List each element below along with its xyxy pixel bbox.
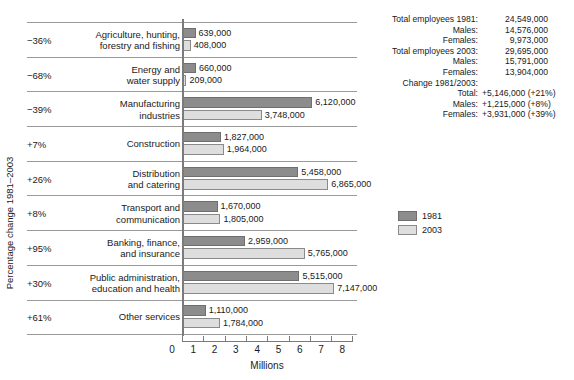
bar-1981 [182, 201, 218, 212]
value-label-1981: 5,515,000 [302, 271, 342, 282]
rows-bottom-rule [27, 334, 357, 335]
category-label-line2: communication [67, 213, 180, 225]
chart-row: +30%Public administration,education and … [27, 265, 357, 300]
stat-row: Females:13,904,000 [378, 67, 548, 78]
category-label: Public administration,education and heal… [67, 271, 180, 294]
stat-value: 24,549,000 [482, 14, 548, 25]
legend-item: 1981 [398, 209, 442, 223]
bar-group: 1,670,0001,805,000 [182, 201, 382, 225]
stat-value: 15,791,000 [482, 56, 548, 67]
y-axis-title: Percentage change 1981–2003 [2, 128, 16, 318]
stat-row: Females:+3,931,000 (+39%) [378, 109, 548, 120]
bar-1981 [182, 97, 312, 108]
value-label-2003: 1,964,000 [227, 144, 267, 155]
summary-stats-panel: Total employees 1981:24,549,000Males:14,… [378, 14, 548, 120]
percentage-change-label: +26% [27, 173, 52, 184]
value-label-2003: 209,000 [189, 75, 222, 86]
category-label-line2: industries [67, 109, 180, 121]
value-label-1981: 2,959,000 [248, 236, 288, 247]
stat-label: Males: [378, 25, 482, 36]
legend-item: 2003 [398, 223, 442, 237]
x-axis-tick-label: 2 [205, 344, 225, 355]
stat-value: 29,695,000 [482, 46, 548, 57]
stat-row: Males:+1,215,000 (+8%) [378, 99, 548, 110]
legend-swatch-icon [398, 225, 417, 235]
category-label-line1: Distribution [67, 167, 180, 179]
x-axis-tick [225, 336, 226, 342]
stat-label: Total: [378, 88, 482, 99]
chart-row: −39%Manufacturingindustries6,120,0003,74… [27, 91, 357, 126]
bar-2003 [182, 248, 305, 259]
legend-label: 1981 [422, 211, 442, 221]
bar-2003 [182, 318, 220, 329]
x-axis-tick [352, 336, 353, 342]
value-label-2003: 408,000 [194, 40, 227, 51]
stat-row: Total employees 2003:29,695,000 [378, 46, 548, 57]
value-label-1981: 1,110,000 [209, 305, 248, 316]
x-axis-tick [331, 336, 332, 342]
x-axis-tick-label: 1 [183, 344, 203, 355]
x-axis-tick [246, 336, 247, 342]
stat-label: Males: [378, 56, 482, 67]
bar-group: 660,000209,000 [182, 63, 382, 87]
value-label-1981: 660,000 [199, 63, 232, 74]
bar-1981 [182, 28, 196, 39]
category-label-line2: water supply [67, 75, 180, 87]
category-label: Manufacturingindustries [67, 98, 180, 121]
x-axis-tick-label: 4 [247, 344, 267, 355]
value-label-1981: 6,120,000 [315, 97, 355, 108]
stat-row: Total:+5,146,000 (+21%) [378, 88, 548, 99]
bar-2003 [182, 110, 262, 121]
stat-value: 9,973,000 [482, 35, 548, 46]
category-label: Banking, finance,and insurance [67, 236, 180, 259]
category-label-line1: Agriculture, hunting, [67, 28, 180, 40]
legend-swatch-icon [398, 211, 417, 221]
stat-row: Males:15,791,000 [378, 56, 548, 67]
percentage-change-label: +8% [27, 208, 46, 219]
stat-label: Females: [378, 109, 482, 120]
stat-row: Males:14,576,000 [378, 25, 548, 36]
stat-label: Change 1981/2003: [378, 78, 482, 89]
bar-group: 1,827,0001,964,000 [182, 132, 382, 156]
value-axis-spine [182, 19, 184, 336]
stat-label: Total employees 1981: [378, 14, 482, 25]
chart-row: +95%Banking, finance,and insurance2,959,… [27, 230, 357, 265]
x-axis-tick [203, 336, 204, 342]
category-label-line1: Energy and [67, 63, 180, 75]
stat-value: +5,146,000 (+21%) [482, 88, 548, 99]
x-axis-tick [310, 336, 311, 342]
bar-2003 [182, 179, 328, 190]
value-label-2003: 5,765,000 [308, 248, 348, 259]
bar-1981 [182, 132, 221, 143]
category-label-line1: Transport and [67, 202, 180, 214]
stat-row: Change 1981/2003: [378, 78, 548, 89]
x-axis-tick [289, 336, 290, 342]
chart-root: Percentage change 1981–2003 −36%Agricult… [0, 0, 574, 380]
x-axis-tick-label: 0 [162, 344, 182, 355]
percentage-change-label: −39% [27, 104, 52, 115]
bar-group: 2,959,0005,765,000 [182, 236, 382, 260]
category-label: Other services [67, 312, 180, 324]
chart-row: −68%Energy andwater supply660,000209,000 [27, 57, 357, 92]
category-label-line2: and catering [67, 179, 180, 191]
legend-label: 2003 [422, 225, 442, 235]
stat-label: Total employees 2003: [378, 46, 482, 57]
chart-row: −36%Agriculture, hunting,forestry and fi… [27, 22, 357, 57]
chart-row: +8%Transport andcommunication1,670,0001,… [27, 195, 357, 230]
value-label-1981: 5,458,000 [301, 167, 341, 178]
value-label-2003: 7,147,000 [337, 283, 377, 294]
bar-1981 [182, 63, 196, 74]
percentage-change-label: +61% [27, 312, 52, 323]
bar-group: 639,000408,000 [182, 28, 382, 52]
stat-value: +1,215,000 (+8%) [482, 99, 548, 110]
x-axis-tick [267, 336, 268, 342]
x-axis-tick-label: 7 [311, 344, 331, 355]
bar-group: 1,110,0001,784,000 [182, 305, 382, 329]
chart-rows: −36%Agriculture, hunting,forestry and fi… [27, 22, 357, 334]
percentage-change-label: +7% [27, 138, 46, 149]
stat-label: Females: [378, 67, 482, 78]
bar-2003 [182, 214, 220, 225]
y-axis-title-label: Percentage change 1981–2003 [4, 157, 15, 290]
stat-label: Males: [378, 99, 482, 110]
chart-legend: 19812003 [398, 209, 442, 237]
